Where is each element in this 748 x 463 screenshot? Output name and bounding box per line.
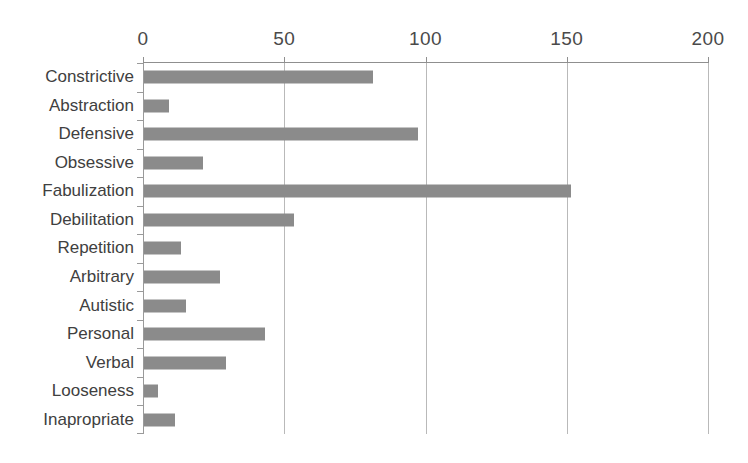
bar-row: Constrictive (0, 63, 748, 92)
category-label-defensive: Defensive (58, 124, 134, 144)
bar-abstraction (144, 99, 169, 112)
category-tick (137, 120, 144, 121)
bar-defensive (144, 128, 418, 141)
horizontal-bar-chart: 050100150200 ConstrictiveAbstractionDefe… (0, 0, 748, 463)
bar-row: Obsessive (0, 149, 748, 178)
bar-row: Personal (0, 320, 748, 349)
x-tick-label-50: 50 (273, 28, 295, 50)
category-tick (137, 206, 144, 207)
bar-track (144, 328, 265, 341)
bar-fabulization (144, 185, 571, 198)
category-tick (137, 234, 144, 235)
category-label-arbitrary: Arbitrary (70, 267, 134, 287)
bar-rows: ConstrictiveAbstractionDefensiveObsessiv… (0, 63, 748, 434)
bar-inapropriate (144, 413, 175, 426)
category-label-obsessive: Obsessive (55, 153, 134, 173)
x-tick-label-100: 100 (409, 28, 442, 50)
category-tick-end (137, 433, 144, 434)
category-tick (137, 63, 144, 64)
category-label-debilitation: Debilitation (50, 210, 134, 230)
category-tick (137, 177, 144, 178)
bar-row: Verbal (0, 348, 748, 377)
bar-track (144, 242, 181, 255)
category-label-looseness: Looseness (52, 381, 134, 401)
bar-arbitrary (144, 270, 220, 283)
bar-track (144, 270, 220, 283)
x-tick-label-0: 0 (137, 28, 148, 50)
category-tick (137, 320, 144, 321)
bar-constrictive (144, 71, 373, 84)
bar-row: Looseness (0, 377, 748, 406)
bar-row: Autistic (0, 291, 748, 320)
category-tick (137, 291, 144, 292)
bar-track (144, 128, 418, 141)
bar-track (144, 213, 294, 226)
bar-row: Defensive (0, 120, 748, 149)
bar-row: Abstraction (0, 92, 748, 121)
bar-row: Debilitation (0, 206, 748, 235)
category-tick (137, 348, 144, 349)
category-tick (137, 149, 144, 150)
bar-obsessive (144, 156, 203, 169)
bar-track (144, 356, 226, 369)
category-label-personal: Personal (67, 324, 134, 344)
category-label-repetition: Repetition (57, 238, 134, 258)
bar-row: Repetition (0, 234, 748, 263)
bar-debilitation (144, 213, 294, 226)
category-label-inapropriate: Inapropriate (43, 410, 134, 430)
bar-looseness (144, 385, 158, 398)
bar-track (144, 413, 175, 426)
bar-track (144, 385, 158, 398)
category-tick (137, 405, 144, 406)
bar-row: Inapropriate (0, 405, 748, 434)
category-label-verbal: Verbal (86, 353, 134, 373)
bar-row: Fabulization (0, 177, 748, 206)
category-label-autistic: Autistic (79, 296, 134, 316)
x-tick-label-200: 200 (691, 28, 724, 50)
bar-verbal (144, 356, 226, 369)
bar-track (144, 299, 186, 312)
bar-track (144, 99, 169, 112)
category-tick (137, 263, 144, 264)
bar-track (144, 71, 373, 84)
bar-personal (144, 328, 265, 341)
bar-track (144, 185, 571, 198)
bar-row: Arbitrary (0, 263, 748, 292)
category-label-fabulization: Fabulization (42, 181, 134, 201)
bar-autistic (144, 299, 186, 312)
category-label-constrictive: Constrictive (45, 67, 134, 87)
category-tick (137, 377, 144, 378)
category-label-abstraction: Abstraction (49, 96, 134, 116)
bar-repetition (144, 242, 181, 255)
x-tick-label-150: 150 (550, 28, 583, 50)
category-tick (137, 92, 144, 93)
bar-track (144, 156, 203, 169)
